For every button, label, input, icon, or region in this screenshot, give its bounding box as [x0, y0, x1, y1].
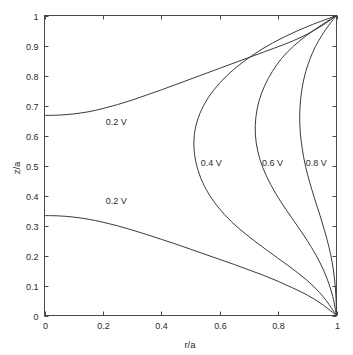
axes-box [45, 16, 337, 316]
plot-frame [45, 16, 337, 316]
y-tick-label: 0.6 [26, 132, 39, 142]
y-tick-label: 0.3 [26, 222, 39, 232]
x-axis-ticks [46, 16, 338, 316]
contour-curve-0-2-v-upper [45, 16, 337, 116]
x-tick-label: 0.2 [97, 321, 110, 331]
contour-label: 0.2 V [106, 196, 127, 206]
contour-label: 0.8 V [306, 158, 327, 168]
contour-annotations: 0.2 V0.2 V0.4 V0.6 V0.8 V [106, 117, 327, 206]
x-axis-tick-labels: 00.20.40.60.81 [43, 321, 340, 331]
figure-container: 00.20.40.60.81 00.10.20.30.40.50.60.70.8… [0, 0, 353, 355]
contour-plot: 00.20.40.60.81 00.10.20.30.40.50.60.70.8… [0, 0, 353, 355]
y-tick-label: 0.5 [26, 162, 39, 172]
x-tick-label: 0 [43, 321, 48, 331]
y-axis-title: z/a [11, 161, 22, 174]
contour-label: 0.2 V [106, 117, 127, 127]
y-tick-label: 0.8 [26, 72, 39, 82]
contour-curve-0-2-v-lower [45, 216, 337, 316]
x-tick-label: 0.6 [214, 321, 227, 331]
y-tick-label: 0.7 [26, 102, 39, 112]
y-axis-ticks [45, 17, 337, 317]
x-tick-label: 1 [335, 321, 340, 331]
y-tick-label: 0 [33, 312, 38, 322]
y-tick-label: 0.2 [26, 252, 39, 262]
contour-curves [45, 16, 337, 316]
x-tick-label: 0.4 [155, 321, 168, 331]
y-tick-label: 0.9 [26, 42, 39, 52]
x-tick-label: 0.8 [272, 321, 285, 331]
y-tick-label: 0.4 [26, 192, 39, 202]
y-tick-label: 1 [33, 12, 38, 22]
y-tick-label: 0.1 [26, 282, 39, 292]
contour-label: 0.6 V [262, 158, 283, 168]
x-axis-title: r/a [184, 339, 196, 350]
y-axis-tick-labels: 00.10.20.30.40.50.60.70.80.91 [26, 12, 39, 322]
contour-label: 0.4 V [201, 158, 222, 168]
